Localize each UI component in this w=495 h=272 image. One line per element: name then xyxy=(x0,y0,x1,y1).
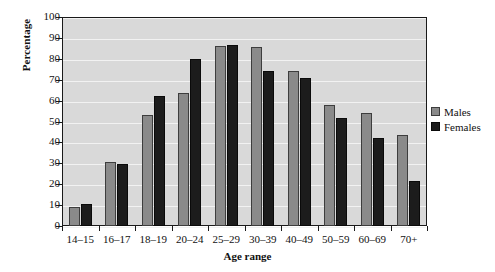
bar-males-20_24 xyxy=(178,93,189,226)
y-tick-label: 80 xyxy=(32,52,60,64)
x-tick-mark xyxy=(245,226,246,231)
y-tick-label: 10 xyxy=(32,198,60,210)
legend-label: Males xyxy=(444,106,471,118)
bar-females-16_17 xyxy=(117,164,128,226)
y-tick-label: 30 xyxy=(32,156,60,168)
x-tick-mark xyxy=(427,226,428,231)
x-tick-mark xyxy=(354,226,355,231)
bar-males-40_49 xyxy=(288,71,299,226)
y-tick-label: 90 xyxy=(32,31,60,43)
bar-females-30_39 xyxy=(263,71,274,226)
bars-layer xyxy=(62,17,427,226)
bar-males-70+ xyxy=(397,135,408,226)
x-tick-mark xyxy=(99,226,100,231)
x-tick-mark xyxy=(135,226,136,231)
y-tick-label: 0 xyxy=(32,219,60,231)
bar-chart: Percentage 0102030405060708090100 14–151… xyxy=(0,0,495,272)
y-tick-label: 40 xyxy=(32,135,60,147)
bar-females-70+ xyxy=(409,181,420,226)
bar-males-18_19 xyxy=(142,115,153,226)
y-tick-label: 100 xyxy=(32,10,60,22)
legend-swatch-icon xyxy=(431,122,440,131)
y-tick-label: 60 xyxy=(32,94,60,106)
bar-males-16_17 xyxy=(105,162,116,226)
x-tick-mark xyxy=(172,226,173,231)
bar-females-18_19 xyxy=(154,96,165,226)
bar-males-14_15 xyxy=(69,207,80,226)
bar-females-60_69 xyxy=(373,138,384,226)
legend-swatch-icon xyxy=(431,107,440,116)
legend-item-males[interactable]: Males xyxy=(431,104,493,119)
bar-females-40_49 xyxy=(300,78,311,226)
bar-males-25_29 xyxy=(215,46,226,226)
bar-males-30_39 xyxy=(251,47,262,226)
bar-females-14_15 xyxy=(81,204,92,226)
legend: MalesFemales xyxy=(431,104,493,134)
legend-label: Females xyxy=(444,121,481,133)
legend-item-females[interactable]: Females xyxy=(431,119,493,134)
x-tick-mark xyxy=(62,226,63,231)
bar-females-20_24 xyxy=(190,59,201,226)
x-tick-mark xyxy=(391,226,392,231)
bar-males-50_59 xyxy=(324,105,335,226)
x-tick-mark xyxy=(281,226,282,231)
x-tick-mark xyxy=(318,226,319,231)
x-axis-title: Age range xyxy=(0,250,495,262)
y-tick-label: 70 xyxy=(32,73,60,85)
bar-females-50_59 xyxy=(336,118,347,226)
bar-females-25_29 xyxy=(227,45,238,226)
x-tick-label: 70+ xyxy=(379,233,439,245)
y-tick-label: 50 xyxy=(32,115,60,127)
y-tick-label: 20 xyxy=(32,177,60,189)
x-tick-mark xyxy=(208,226,209,231)
bar-males-60_69 xyxy=(361,113,372,226)
